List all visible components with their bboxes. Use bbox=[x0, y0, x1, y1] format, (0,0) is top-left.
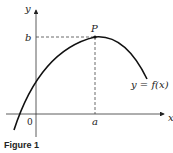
figure-caption: Figure 1 bbox=[4, 140, 39, 150]
x-axis-label: x bbox=[168, 112, 173, 123]
b-label: b bbox=[25, 32, 31, 43]
curve bbox=[14, 37, 147, 130]
point-label: P bbox=[90, 23, 98, 34]
figure-diagram: y x 0 P b a y = f(x) bbox=[0, 0, 173, 153]
point-p bbox=[93, 35, 96, 38]
y-axis-label: y bbox=[24, 3, 31, 14]
origin-label: 0 bbox=[27, 117, 33, 127]
curve-label: y = f(x) bbox=[130, 79, 169, 90]
a-label: a bbox=[92, 116, 98, 127]
